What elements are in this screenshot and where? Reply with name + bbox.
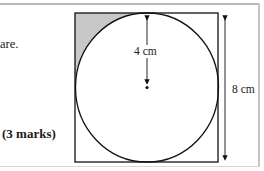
circle-in-square-diagram	[0, 0, 264, 171]
side-length-label: 8 cm	[231, 83, 256, 96]
center-point	[145, 86, 148, 89]
radius-label: 4 cm	[133, 45, 158, 58]
